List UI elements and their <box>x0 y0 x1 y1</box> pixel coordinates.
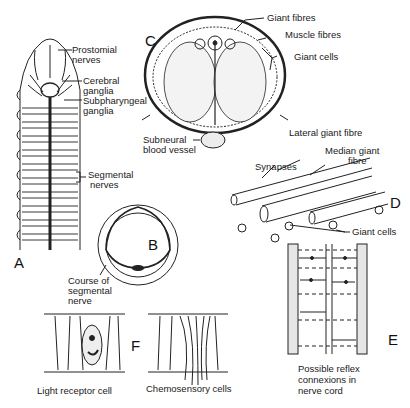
panel-letter-e: E <box>388 331 398 348</box>
label-possible-reflex-line2: connexions in <box>298 375 356 385</box>
label-lateral-giant-fibre: Lateral giant fibre <box>289 128 362 138</box>
panel-letter-a: A <box>14 254 24 271</box>
label-subpharyngeal-ganglia-line2: ganglia <box>83 106 114 116</box>
label-segmental-nerves-line2: nerves <box>90 180 119 190</box>
panel-letter-b: B <box>148 236 158 253</box>
panel-b-ring <box>98 205 178 285</box>
label-giant-fibres: Giant fibres <box>267 13 316 23</box>
label-chemosensory-cells: Chemosensory cells <box>146 384 232 394</box>
label-synapses: Synapses <box>255 162 297 172</box>
label-prostomial-nerves-line2: nerves <box>72 55 101 65</box>
label-subneural-blood-vessel-line2: blood vessel <box>143 145 196 155</box>
panel-letter-f: F <box>131 337 140 354</box>
label-muscle-fibres: Muscle fibres <box>285 30 341 40</box>
diagram-artwork <box>0 0 410 408</box>
panel-c-cross-section <box>142 17 288 148</box>
panel-e-nerve-cord <box>288 244 367 354</box>
panel-letter-c: C <box>145 32 156 49</box>
label-giant-cells-c: Giant cells <box>294 52 338 62</box>
label-possible-reflex-line3: nerve cord <box>298 386 343 396</box>
label-possible-reflex: Possible reflex <box>298 364 360 374</box>
label-giant-cells-d: Giant cells <box>352 227 396 237</box>
label-median-giant-fibre-line2: fibre <box>348 156 366 166</box>
label-course-line3: nerve <box>68 296 92 306</box>
panel-a-worm-drawing <box>17 39 86 250</box>
label-light-receptor-cell: Light receptor cell <box>37 386 112 396</box>
panel-letter-d: D <box>390 194 401 211</box>
